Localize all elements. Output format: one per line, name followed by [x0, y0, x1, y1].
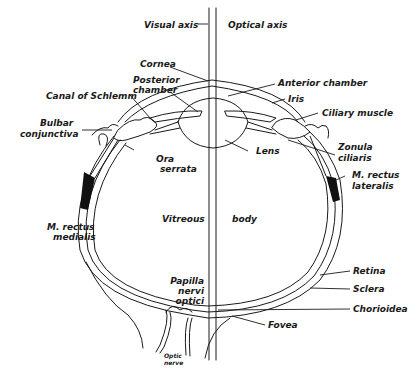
label-papilla-3: optici — [168, 296, 204, 306]
bulbar-conjunctiva-right — [305, 124, 329, 138]
eye-illustration — [0, 0, 412, 378]
label-anterior-chamber: Anterior chamber — [278, 78, 367, 88]
label-optic-nerve-2: nerve — [164, 360, 183, 366]
label-ora-serrata-1: Ora — [156, 154, 174, 164]
label-m-rectus-medialis-2: medialis — [53, 232, 96, 242]
label-visual-axis: Visual axis — [144, 20, 198, 30]
iris-left — [150, 111, 202, 122]
label-optical-axis: Optical axis — [228, 20, 287, 30]
iris-right — [225, 111, 276, 122]
optic-nerve-left — [156, 310, 167, 352]
label-papilla-2: nervi — [168, 286, 204, 296]
m-rectus-medialis-muscle — [80, 172, 95, 210]
eye-diagram: Visual axis Optical axis Cornea Posterio… — [0, 0, 412, 378]
label-posterior-chamber-2: chamber — [133, 85, 177, 95]
retina-layer — [93, 140, 328, 306]
label-lens: Lens — [256, 146, 280, 156]
label-iris: Iris — [288, 94, 304, 104]
m-rectus-lateralis-muscle — [326, 176, 340, 202]
label-chorioidea: Chorioidea — [353, 304, 408, 314]
label-bulbar-conjunctiva-1: Bulbar — [40, 118, 73, 128]
label-posterior-chamber-1: Posterior — [133, 75, 180, 85]
label-vitreous: Vitreous — [162, 214, 205, 224]
optic-nerve-right — [185, 318, 188, 355]
label-body: body — [232, 214, 257, 224]
label-retina: Retina — [353, 266, 385, 276]
label-zonula-ciliaris-2: ciliaris — [338, 153, 372, 163]
label-sclera: Sclera — [353, 284, 385, 294]
choroid-layer — [86, 136, 335, 312]
label-bulbar-conjunctiva-2: conjunctiva — [20, 129, 79, 139]
label-papilla-1: Papilla — [168, 276, 204, 286]
label-m-rectus-lateralis-1: M. rectus — [352, 170, 399, 180]
label-fovea: Fovea — [268, 320, 298, 330]
label-m-rectus-lateralis-2: lateralis — [352, 181, 394, 191]
sclera-outer — [78, 132, 342, 318]
label-zonula-ciliaris-1: Zonula — [338, 142, 373, 152]
label-ora-serrata-2: serrata — [160, 164, 197, 174]
ciliary-body-left — [114, 117, 157, 140]
label-m-rectus-medialis-1: M. rectus — [47, 222, 94, 232]
label-cornea: Cornea — [140, 59, 176, 69]
label-ciliary-muscle: Ciliary muscle — [322, 108, 393, 118]
label-canal-of-schlemm: Canal of Schlemm — [46, 91, 137, 101]
